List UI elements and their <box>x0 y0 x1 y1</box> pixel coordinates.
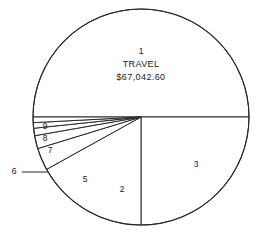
slice-label-8: 8 <box>43 133 48 143</box>
slice-1-number: 1 <box>139 46 144 56</box>
slice-label-7: 7 <box>48 145 53 155</box>
slice-label-5: 5 <box>83 174 88 184</box>
slice-label-6: 6 <box>12 166 17 176</box>
pie-chart-figure: 1 TRAVEL $67,042.60 3256789 <box>0 0 272 241</box>
slice-label-2: 2 <box>120 184 125 194</box>
pie-slices-group <box>33 9 249 225</box>
slice-label-3: 3 <box>194 159 199 169</box>
pie-chart-svg: 1 TRAVEL $67,042.60 3256789 <box>0 0 272 241</box>
slice-label-9: 9 <box>43 121 48 131</box>
pie-slice-3[interactable] <box>141 117 249 225</box>
slice-1-name: TRAVEL <box>123 59 160 69</box>
slice-1-value: $67,042.60 <box>116 72 165 82</box>
